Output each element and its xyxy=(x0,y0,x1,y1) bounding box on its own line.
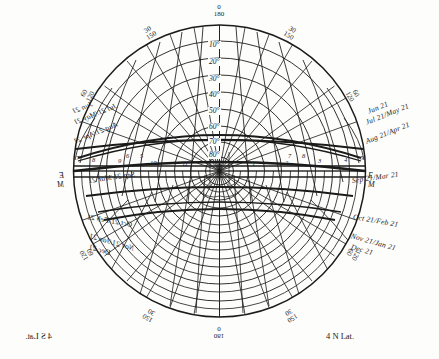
azimuth-label-top: 180 xyxy=(208,331,230,338)
azimuth-label-bottom: 0 xyxy=(208,324,230,331)
hour-label-inner-left-5: 5 xyxy=(140,153,143,160)
hour-label-inner-right-7: 7 xyxy=(288,153,291,160)
latitude-label-south: 4 S Lat. xyxy=(25,332,52,341)
hour-line-lower-3 xyxy=(266,185,299,294)
altitude-label-60: 60° xyxy=(208,123,221,131)
altitude-label-70: 70° xyxy=(208,138,221,146)
hour-label-pm-1: 1 xyxy=(252,161,255,168)
altitude-label-30: 30° xyxy=(208,75,221,83)
azimuth-label-0-180: 0180 xyxy=(208,4,230,19)
hour-label-am-7: 7 xyxy=(76,155,79,162)
hour-label-pm-2: 2 xyxy=(285,160,288,167)
altitude-label-20: 20° xyxy=(208,58,221,66)
latitude-label-north: 4 N Lat. xyxy=(326,332,354,341)
altitude-label-40: 40° xyxy=(208,91,221,99)
altitude-label-80: 80° xyxy=(208,151,221,159)
hour-label-am-10: 10 xyxy=(150,160,157,167)
hour-label-am-11: 11 xyxy=(182,161,188,168)
hour-label-pm-4: 4 xyxy=(344,157,347,164)
azimuth-label-bottom: 180 xyxy=(208,11,230,18)
altitude-label-10: 10° xyxy=(208,41,221,49)
hour-label-inner-right-8: 8 xyxy=(302,153,305,160)
cardinal-label-west-left: M xyxy=(57,181,64,189)
sun-path-chart-page: 4 N Lat. 4 S Lat. E M E M 01803015030150… xyxy=(0,0,439,359)
hour-label-am-9: 9 xyxy=(118,158,121,165)
hour-line-lower-5 xyxy=(311,200,353,246)
hour-line-lower-1 xyxy=(234,175,243,313)
hour-label-inner-left-6: 6 xyxy=(126,153,129,160)
hour-label-pm-5: 5 xyxy=(360,155,363,162)
hour-line-lower-11 xyxy=(196,175,205,313)
hour-line-lower-9 xyxy=(140,185,173,294)
hour-line-4 xyxy=(303,60,343,182)
hour-label-pm-3: 3 xyxy=(318,158,321,165)
hour-label-am-8: 8 xyxy=(92,157,95,164)
hour-line-3 xyxy=(279,42,317,196)
azimuth-label-180-0: 1800 xyxy=(208,324,230,339)
altitude-label-50: 50° xyxy=(208,107,221,115)
